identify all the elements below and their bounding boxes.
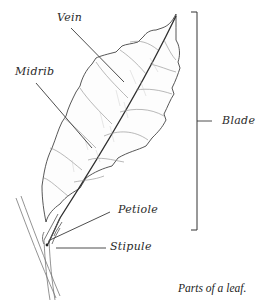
label-vein: Vein — [57, 12, 82, 23]
label-stipule: Stipule — [110, 241, 152, 252]
leaf-blade-outline — [42, 14, 180, 222]
figure-caption: Parts of a leaf. — [178, 283, 246, 295]
blade-bracket — [191, 12, 197, 230]
petiole-leader — [50, 212, 110, 240]
stem — [16, 196, 60, 300]
leaf-illustration — [0, 0, 262, 301]
label-petiole: Petiole — [118, 204, 158, 215]
label-blade: Blade — [222, 115, 255, 126]
node-point — [46, 244, 49, 247]
leaf-diagram: Vein Midrib Blade Petiole Stipule Parts … — [0, 0, 262, 301]
label-midrib: Midrib — [15, 66, 54, 77]
